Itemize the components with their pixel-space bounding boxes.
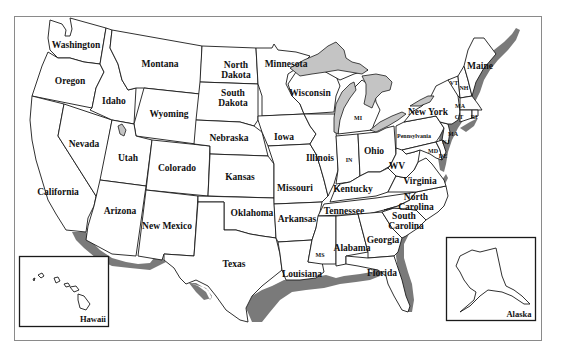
label-north-carolina-2: Carolina	[398, 202, 434, 212]
label-illinois: Illinois	[306, 153, 334, 163]
label-iowa: Iowa	[274, 132, 294, 142]
label-connecticut: CT	[455, 114, 463, 120]
label-wyoming: Wyoming	[149, 109, 188, 119]
label-north-carolina-1: North	[404, 192, 429, 202]
label-new-jersey: NJ	[442, 139, 449, 145]
us-map: Hawaii Alaska Washington Oregon Californ…	[0, 0, 561, 355]
label-massachusetts-2: MA	[448, 131, 459, 137]
label-rhode-island: RI	[471, 114, 478, 120]
label-virginia: Virginia	[403, 176, 437, 186]
label-delaware: DE	[439, 153, 447, 159]
label-idaho: Idaho	[102, 96, 126, 106]
label-ohio: Ohio	[364, 146, 384, 156]
label-kentucky: Kentucky	[333, 184, 373, 194]
label-north-dakota-2: Dakota	[221, 70, 251, 80]
label-arkansas: Arkansas	[278, 214, 317, 224]
label-georgia: Georgia	[367, 235, 400, 245]
label-maryland: MD	[428, 148, 439, 154]
label-florida: Florida	[367, 268, 397, 278]
label-kansas: Kansas	[225, 172, 255, 182]
label-new-mexico: New Mexico	[142, 221, 192, 231]
label-mississippi: MS	[316, 252, 326, 258]
label-west-virginia: WV	[389, 161, 406, 171]
label-vermont: VT	[450, 80, 458, 86]
label-nebraska: Nebraska	[209, 133, 248, 143]
label-south-carolina-2: Carolina	[388, 221, 424, 231]
label-alabama: Alabama	[334, 243, 371, 253]
label-south-dakota-2: Dakota	[218, 98, 248, 108]
label-pennsylvania: Pennsylvania	[397, 133, 431, 139]
label-california: California	[37, 187, 79, 197]
label-michigan: MI	[354, 115, 363, 121]
label-minnesota: Minnesota	[265, 59, 308, 69]
label-alaska: Alaska	[506, 309, 532, 319]
label-north-dakota-1: North	[224, 60, 249, 70]
label-hawaii: Hawaii	[80, 314, 107, 324]
label-washington: Washington	[52, 40, 101, 50]
label-maine: Maine	[467, 61, 493, 71]
label-south-carolina-1: South	[392, 211, 416, 221]
label-texas: Texas	[223, 259, 246, 269]
label-tennessee: Tennessee	[324, 206, 364, 216]
label-massachusetts: MA	[455, 103, 466, 109]
label-new-hampshire: NH	[460, 85, 469, 91]
label-montana: Montana	[142, 59, 179, 69]
hawaii-inset: Hawaii	[20, 257, 109, 327]
label-oklahoma: Oklahoma	[231, 208, 274, 218]
label-indiana: IN	[346, 157, 353, 163]
label-utah: Utah	[118, 153, 139, 163]
label-nevada: Nevada	[69, 139, 100, 149]
label-new-york: New York	[408, 107, 449, 117]
label-colorado: Colorado	[158, 163, 196, 173]
label-south-dakota-1: South	[221, 88, 245, 98]
label-missouri: Missouri	[277, 183, 313, 193]
alaska-inset: Alaska	[447, 238, 536, 321]
label-arizona: Arizona	[104, 206, 137, 216]
label-wisconsin: Wisconsin	[289, 88, 331, 98]
label-oregon: Oregon	[55, 76, 86, 86]
label-louisiana: Louisiana	[282, 269, 322, 279]
